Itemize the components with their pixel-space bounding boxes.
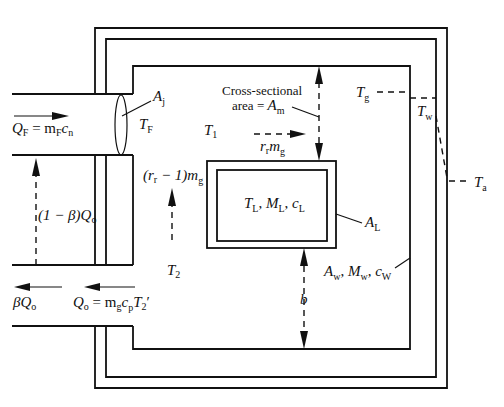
jet-area-label: Aj	[152, 88, 165, 107]
wall-section-left	[95, 155, 133, 265]
wall-gradient-line	[436, 116, 447, 178]
recuperated-arrowhead-icon	[32, 158, 40, 176]
fuel-arrowhead-icon	[52, 112, 69, 120]
jet-area-ellipse	[115, 95, 127, 155]
recuperated-heat-label: (1 − β)Qo	[38, 207, 96, 225]
exhaust-heat-label: Qo = mgcpT2′	[73, 294, 150, 313]
gap-bottom-arrowhead-icon	[300, 331, 308, 349]
bypass-arrowhead-icon	[14, 283, 30, 291]
wall-temp-label: Tw	[417, 103, 433, 122]
fuel-flow-label: QF = mFcn	[12, 120, 73, 138]
wall-properties-label: Aw, Mw, cW	[323, 263, 392, 282]
recirculation-right-label: rrmg	[260, 138, 285, 157]
load-area-leader	[336, 214, 362, 223]
cross-section-leader	[292, 107, 319, 117]
cross-section-label-line2: area = Am	[232, 97, 285, 116]
flame-temp-label: TF	[139, 116, 153, 135]
zone1-temp-label: T1	[204, 122, 217, 140]
dim-top-arrowhead-icon	[315, 66, 323, 84]
recirculation-up-label: (rr − 1)mg	[143, 167, 203, 186]
recirculation-right-arrowhead-icon	[290, 130, 306, 138]
dim-bottom-arrowhead-icon	[315, 143, 323, 161]
zone2-temp-label: T2	[167, 262, 180, 280]
ambient-temp-label: Ta	[474, 174, 487, 193]
gap-label: b	[300, 291, 308, 307]
cross-section-label-line1: Cross-sectional	[222, 83, 303, 98]
load-area-label: AL	[364, 214, 380, 233]
exhaust-arrowhead-icon	[84, 283, 100, 291]
furnace-diagram: QF = mFcn Aj TF T1 Cross-sectional area …	[0, 0, 504, 407]
load-properties-label: TL, ML, cL	[244, 195, 305, 214]
bypass-heat-label: βQo	[12, 294, 36, 312]
wall-props-leader	[395, 258, 410, 268]
gas-temp-label: Tg	[356, 84, 369, 103]
recirculation-up-arrowhead-icon	[168, 188, 176, 206]
gap-top-arrowhead-icon	[300, 248, 308, 266]
